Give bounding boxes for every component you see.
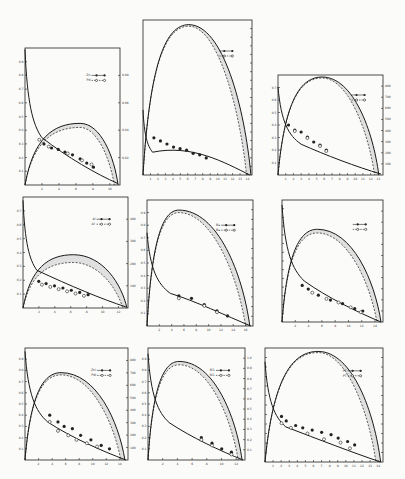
x-tick-label: 11: [223, 177, 227, 181]
data-point-filled: [329, 433, 332, 436]
left-tick-label: 0.3: [17, 264, 22, 268]
x-tick-label: 8: [202, 177, 204, 181]
right-tick-label: 0.3: [247, 427, 252, 431]
data-point-open: [81, 159, 84, 162]
x-tick-label: 2: [292, 177, 294, 181]
data-point-open: [211, 444, 214, 447]
x-tick-label: 3: [300, 177, 302, 181]
data-point-open: [96, 445, 99, 448]
x-tick-label: 6: [313, 464, 315, 468]
plot-svg: 24681012140.10.20.30.40.50.60.70.80.9100…: [25, 348, 128, 460]
data-point-open: [66, 290, 69, 293]
data-point-filled: [159, 139, 162, 142]
right-tick-label: 700: [130, 371, 136, 375]
data-point-open: [306, 432, 309, 435]
data-point-filled: [205, 156, 208, 159]
legend-filled-marker-icon: [357, 223, 359, 225]
left-tick-label: 0.2: [142, 436, 147, 440]
right-tick-label: 1.0: [247, 356, 252, 360]
x-tick-label: 6: [183, 328, 185, 332]
data-point-open: [57, 288, 60, 291]
left-tick-label: 0.7: [19, 380, 24, 384]
left-tick-label: 0.3: [142, 424, 147, 428]
left-tick-label: 0.8: [141, 223, 146, 227]
left-tick-label: 0.7: [19, 87, 24, 91]
data-point-filled: [294, 424, 297, 427]
left-tick-label: 0.2: [19, 156, 24, 160]
left-tick-label: 0.7: [17, 209, 22, 213]
data-point-open: [56, 429, 59, 432]
data-point-filled: [285, 419, 288, 422]
x-tick-label: 8: [339, 177, 341, 181]
x-tick-label: 2: [162, 462, 164, 466]
right-tick-label: 0.1: [247, 448, 252, 452]
legend-label: Bi1: [210, 373, 215, 377]
data-point-open: [349, 306, 352, 309]
x-tick-label: 9: [209, 177, 211, 181]
left-tick-label: 0.7: [272, 86, 277, 90]
x-tick-label: 4: [308, 324, 310, 328]
data-point-filled: [78, 291, 81, 294]
left-tick-label: 0.1: [142, 447, 147, 451]
plot-panel-4: 246810120.10.20.30.40.50.60.710020030040…: [23, 197, 128, 308]
left-tick-label: 0.5: [19, 115, 24, 119]
data-point-filled: [300, 130, 303, 133]
data-point-open: [337, 301, 340, 304]
data-point-filled: [71, 427, 74, 430]
left-tick-label: 0.6: [142, 391, 147, 395]
data-point-open: [47, 145, 50, 148]
data-point-filled: [311, 428, 314, 431]
data-point-filled: [53, 284, 56, 287]
data-point-open: [306, 137, 309, 140]
x-tick-label: 2: [38, 462, 40, 466]
x-tick-label: 10: [353, 177, 357, 181]
data-point-filled: [89, 438, 92, 441]
x-tick-label: 14: [373, 324, 377, 328]
x-tick-label: 10: [347, 324, 351, 328]
x-tick-label: 12: [219, 328, 223, 332]
data-point-open: [319, 145, 322, 148]
right-tick-label: 0.8: [247, 377, 252, 381]
x-tick-label: 10: [101, 310, 105, 314]
legend-open-marker-icon: [223, 55, 225, 57]
data-point-open: [293, 130, 296, 133]
left-tick-label: 0.5: [17, 237, 22, 241]
x-tick-label: 16: [244, 328, 248, 332]
x-tick-label: 3: [164, 177, 166, 181]
data-point-open: [203, 304, 206, 307]
left-tick-label: 0.5: [141, 261, 146, 265]
data-point-filled: [192, 152, 195, 155]
plot-panel-9: 1234567891011121314PTPT: [265, 348, 383, 462]
left-tick-label: 0.2: [141, 299, 146, 303]
data-point-open: [311, 291, 314, 294]
right-tick-label: 300: [385, 140, 391, 144]
right-tick-label: 200: [385, 151, 391, 155]
x-tick-label: 12: [234, 462, 238, 466]
data-point-filled: [280, 415, 283, 418]
legend-open-marker-icon: [101, 374, 103, 376]
data-point-open: [40, 283, 43, 286]
left-tick-label: 0.6: [17, 223, 22, 227]
data-point-filled: [87, 293, 90, 296]
right-tick-label: 200: [130, 262, 136, 266]
legend-label: Ba: [216, 228, 220, 232]
legend-filled-marker-icon: [355, 94, 357, 96]
left-tick-label: 0.6: [141, 248, 146, 252]
legend-open-marker-icon: [352, 375, 354, 377]
data-point-open: [280, 422, 283, 425]
plot-svg: 2468100.10.20.30.40.50.60.70.80.90.020.0…: [25, 48, 120, 185]
legend-open-marker-icon: [220, 374, 222, 376]
data-point-filled: [312, 140, 315, 143]
data-point-open: [85, 442, 88, 445]
legend-filled-marker-icon: [95, 74, 97, 76]
data-point-open: [90, 163, 93, 166]
legend-open-marker-icon: [100, 223, 102, 225]
legend-label: Bi1: [210, 368, 215, 372]
x-tick-label: 2: [157, 177, 159, 181]
data-point-filled: [287, 123, 290, 126]
x-tick-label: 12: [104, 462, 108, 466]
data-point-filled: [108, 447, 111, 450]
data-point-open: [339, 441, 342, 444]
left-tick-label: 0.9: [19, 60, 24, 64]
legend: ZnPd: [86, 73, 105, 82]
